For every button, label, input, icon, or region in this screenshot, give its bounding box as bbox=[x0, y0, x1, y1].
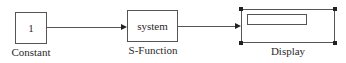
constant-value: 1 bbox=[28, 22, 34, 34]
selection-handle-bottom-left[interactable] bbox=[239, 41, 243, 45]
selection-handle-top-left[interactable] bbox=[239, 7, 243, 11]
selection-handle-bottom-right[interactable] bbox=[333, 41, 337, 45]
display-block[interactable] bbox=[241, 9, 335, 43]
display-label: Display bbox=[262, 45, 314, 57]
signal-line-constant-to-sfunction[interactable] bbox=[47, 27, 121, 28]
sfunction-block[interactable]: system bbox=[127, 10, 178, 42]
selection-handle-top-right[interactable] bbox=[333, 7, 337, 11]
signal-line-sfunction-to-display[interactable] bbox=[178, 26, 235, 27]
sfunction-label: S-Function bbox=[122, 44, 184, 56]
display-readout bbox=[247, 14, 307, 25]
sfunction-value: system bbox=[137, 20, 168, 32]
constant-label: Constant bbox=[4, 46, 58, 58]
constant-block[interactable]: 1 bbox=[15, 12, 47, 44]
